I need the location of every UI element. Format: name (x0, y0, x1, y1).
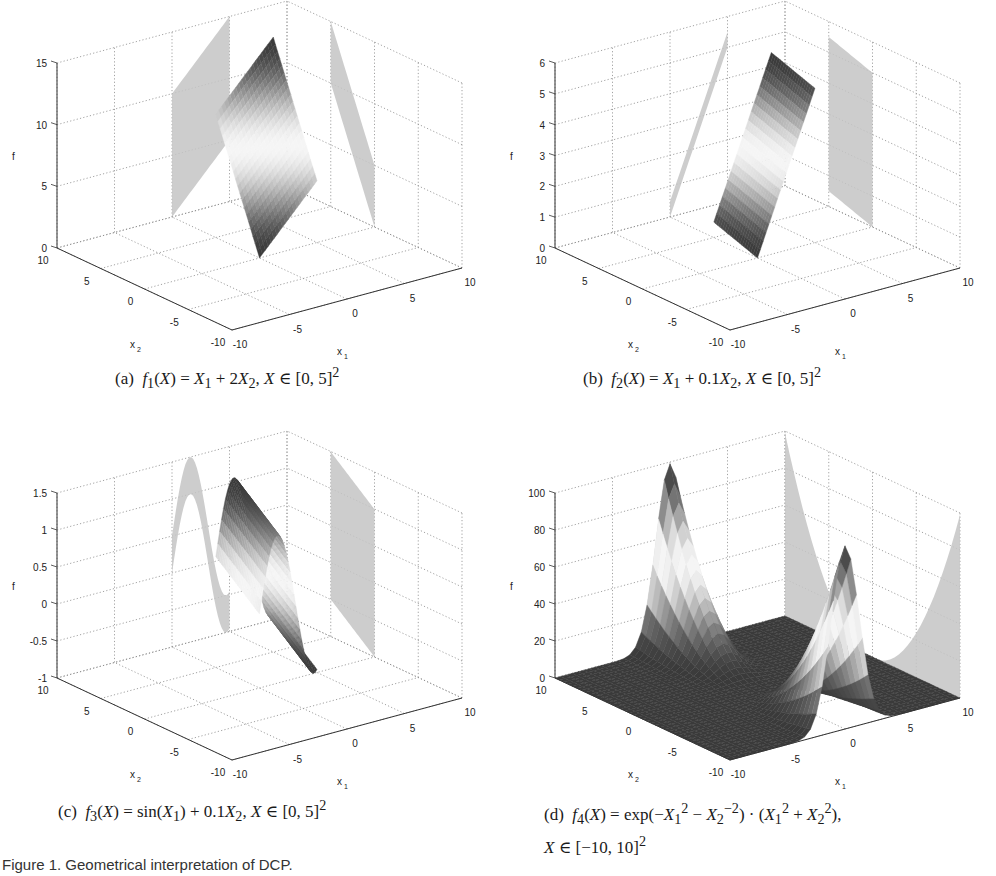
x2-tick-label: 10 (37, 255, 49, 266)
x1-tick-label: 10 (464, 277, 476, 288)
panel-d: 020406080100-10-50510-10-50510fx2x1 (498, 430, 996, 830)
z-tick-label: 15 (36, 58, 48, 69)
z-tick-label: 20 (534, 636, 546, 647)
svg-text:1: 1 (344, 353, 348, 360)
x2-tick-label: 0 (626, 726, 632, 737)
svg-text:2: 2 (635, 346, 639, 353)
x1-tick-label: 10 (464, 707, 476, 718)
x1-tick-label: -5 (791, 324, 800, 335)
x1-tick-label: -10 (731, 339, 746, 350)
z-tick-label: 0.5 (33, 562, 47, 573)
x2-axis-label: x (628, 339, 633, 350)
x2-tick-label: -10 (709, 337, 724, 348)
x2-tick-label: 0 (128, 296, 134, 307)
caption-d-label: (d) (544, 805, 564, 824)
x1-tick-label: 5 (410, 293, 416, 304)
x1-tick-label: -5 (293, 754, 302, 765)
x1-tick-label: 0 (850, 738, 856, 749)
z-tick-label: 3 (539, 151, 545, 162)
x2-tick-label: -5 (170, 747, 179, 758)
x2-tick-label: 0 (626, 296, 632, 307)
z-axis-label: f (12, 581, 15, 592)
z-tick-label: 40 (534, 599, 546, 610)
x1-tick-label: -10 (233, 769, 248, 780)
caption-c-label: (c) (58, 802, 77, 821)
panel-b: 0123456-10-50510-10-50510fx2x1 (498, 0, 996, 400)
x2-tick-label: -5 (170, 317, 179, 328)
x1-tick-label: 5 (410, 723, 416, 734)
x2-axis-label: x (130, 339, 135, 350)
x2-tick-label: -5 (668, 747, 677, 758)
caption-b-label: (b) (583, 369, 603, 388)
z-tick-label: 4 (539, 120, 545, 131)
caption-b: (b) f2(X) = X1 + 0.1X2, X ∈ [0, 5]2 (583, 364, 821, 392)
x2-tick-label: 5 (84, 706, 90, 717)
x2-tick-label: 0 (128, 726, 134, 737)
x2-tick-label: 10 (37, 685, 49, 696)
z-tick-label: 1 (41, 525, 47, 536)
x2-tick-label: -10 (709, 767, 724, 778)
svg-text:2: 2 (635, 776, 639, 783)
z-axis-label: f (12, 151, 15, 162)
x2-tick-label: -5 (668, 317, 677, 328)
caption-a-formula: f1(X) = X1 + 2X2, X ∈ [0, 5]2 (142, 369, 339, 388)
svg-text:1: 1 (842, 353, 846, 360)
z-tick-label: 1 (539, 212, 545, 223)
surface-plot-d: 020406080100-10-50510-10-50510fx2x1 (498, 430, 996, 830)
x1-tick-label: 5 (908, 293, 914, 304)
z-tick-label: 5 (41, 181, 47, 192)
x1-tick-label: 0 (352, 738, 358, 749)
surface-plot-a: 051015-10-50510-10-50510fx2x1 (0, 0, 498, 400)
x2-tick-label: 10 (535, 685, 547, 696)
z-tick-label: 0 (41, 243, 47, 254)
caption-d: (d) f4(X) = exp(−X12 − X2−2) · (X12 + X2… (544, 797, 842, 859)
caption-c: (c) f3(X) = sin(X1) + 0.1X2, X ∈ [0, 5]2 (58, 797, 326, 825)
z-tick-label: 2 (539, 181, 545, 192)
x2-axis-label: x (130, 769, 135, 780)
z-tick-label: 10 (36, 120, 48, 131)
x1-axis-label: x (835, 776, 840, 787)
z-axis-label: f (510, 581, 513, 592)
panel-a: 051015-10-50510-10-50510fx2x1 (0, 0, 498, 400)
x2-tick-label: 5 (582, 706, 588, 717)
z-tick-label: 0 (41, 599, 47, 610)
z-axis-label: f (510, 151, 513, 162)
x1-tick-label: -5 (293, 324, 302, 335)
svg-text:1: 1 (842, 783, 846, 790)
z-tick-label: 5 (539, 89, 545, 100)
x1-tick-label: 10 (962, 707, 974, 718)
z-tick-label: 80 (534, 525, 546, 536)
x2-tick-label: 5 (582, 276, 588, 287)
figure-caption: Figure 1. Geometrical interpretation of … (2, 856, 293, 873)
surface-plot-c: -1-0.500.511.5-10-50510-10-50510fx2x1 (0, 430, 498, 830)
svg-text:2: 2 (137, 346, 141, 353)
panel-c: -1-0.500.511.5-10-50510-10-50510fx2x1 (0, 430, 498, 830)
z-tick-label: 0 (539, 243, 545, 254)
x2-tick-label: -10 (211, 337, 226, 348)
z-tick-label: 1.5 (33, 488, 47, 499)
caption-c-formula: f3(X) = sin(X1) + 0.1X2, X ∈ [0, 5]2 (85, 802, 326, 821)
x2-tick-label: 10 (535, 255, 547, 266)
caption-b-formula: f2(X) = X1 + 0.1X2, X ∈ [0, 5]2 (611, 369, 821, 388)
x1-tick-label: -5 (791, 754, 800, 765)
x1-tick-label: 0 (352, 308, 358, 319)
x1-axis-label: x (337, 776, 342, 787)
x2-tick-label: 5 (84, 276, 90, 287)
x1-tick-label: 0 (850, 308, 856, 319)
z-tick-label: 6 (539, 58, 545, 69)
x1-tick-label: -10 (731, 769, 746, 780)
z-tick-label: 60 (534, 562, 546, 573)
surface-plot-b: 0123456-10-50510-10-50510fx2x1 (498, 0, 996, 400)
x1-axis-label: x (835, 346, 840, 357)
x1-tick-label: 5 (908, 723, 914, 734)
x2-axis-label: x (628, 769, 633, 780)
svg-text:1: 1 (344, 783, 348, 790)
x1-axis-label: x (337, 346, 342, 357)
x1-tick-label: 10 (962, 277, 974, 288)
caption-d-formula: f4(X) = exp(−X12 − X2−2) · (X12 + X22),X… (544, 805, 842, 857)
x1-tick-label: -10 (233, 339, 248, 350)
caption-a-label: (a) (115, 369, 134, 388)
svg-text:2: 2 (137, 776, 141, 783)
caption-a: (a) f1(X) = X1 + 2X2, X ∈ [0, 5]2 (115, 364, 339, 392)
z-tick-label: 0 (539, 673, 545, 684)
